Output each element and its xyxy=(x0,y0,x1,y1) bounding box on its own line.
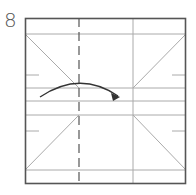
crease-diagonal xyxy=(25,115,79,170)
crease-diagonal xyxy=(25,34,79,88)
crease-lines xyxy=(25,18,186,184)
origami-diagram xyxy=(0,0,196,195)
crease-diagonal xyxy=(133,115,186,170)
crease-diagonal xyxy=(133,34,186,88)
fold-arrow-icon xyxy=(40,83,120,101)
